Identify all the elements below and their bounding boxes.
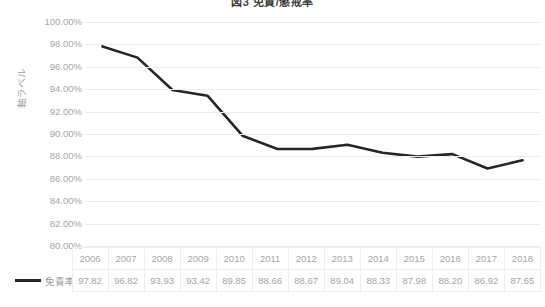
table-year-cell: 2013 — [324, 248, 360, 270]
gridline — [85, 134, 540, 135]
series-line-免責率 — [103, 46, 523, 168]
y-tick-label: 90.00% — [4, 129, 82, 139]
table-year-cell: 2016 — [432, 248, 468, 270]
y-tick-label: 88.00% — [4, 151, 82, 161]
table-value-cell: 93.42 — [180, 270, 216, 292]
table-year-cell: 2012 — [288, 248, 324, 270]
table-value-cell: 88.67 — [288, 270, 324, 292]
chart-data-table: 2006200720082009201020112012201320142015… — [14, 247, 541, 292]
table-year-cell: 2006 — [72, 248, 108, 270]
table-value-cell: 88.66 — [252, 270, 288, 292]
table-year-cell: 2018 — [504, 248, 540, 270]
table-year-cell: 2008 — [144, 248, 180, 270]
table-year-cell: 2009 — [180, 248, 216, 270]
table-value-cell: 87.65 — [504, 270, 540, 292]
table-year-cell: 2014 — [360, 248, 396, 270]
table-value-cell: 93.93 — [144, 270, 180, 292]
gridline — [85, 22, 540, 23]
gridline — [85, 112, 540, 113]
y-tick-label: 100.00% — [4, 17, 82, 27]
table-corner-cell — [14, 248, 72, 270]
table-year-cell: 2010 — [216, 248, 252, 270]
table-year-cell: 2017 — [468, 248, 504, 270]
table-value-cell: 88.20 — [432, 270, 468, 292]
gridline — [85, 201, 540, 202]
legend-label: 免責率 — [45, 276, 72, 287]
y-tick-label: 92.00% — [4, 107, 82, 117]
y-tick-label: 84.00% — [4, 196, 82, 206]
y-axis-tick-labels: 100.00%98.00%96.00%94.00%92.00%90.00%88.… — [0, 22, 82, 246]
gridline — [85, 89, 540, 90]
table-row-years: 2006200720082009201020112012201320142015… — [14, 248, 541, 270]
table-value-cell: 88.33 — [360, 270, 396, 292]
chart-title: 図3 免責/懲戒率 — [0, 0, 545, 9]
table-value-cell: 97.82 — [72, 270, 108, 292]
gridline — [85, 67, 540, 68]
table-value-cell: 86.92 — [468, 270, 504, 292]
table-year-cell: 2007 — [108, 248, 144, 270]
y-tick-label: 86.00% — [4, 174, 82, 184]
y-tick-label: 98.00% — [4, 39, 82, 49]
y-tick-label: 94.00% — [4, 84, 82, 94]
gridline — [85, 224, 540, 225]
plot-area — [85, 22, 540, 246]
gridline — [85, 44, 540, 45]
gridline — [85, 156, 540, 157]
y-tick-label: 96.00% — [4, 62, 82, 72]
y-tick-label: 82.00% — [4, 219, 82, 229]
gridline — [85, 179, 540, 180]
table-row-values: 免責率 97.8296.8293.9393.4289.8588.6688.678… — [14, 270, 541, 292]
table-value-cell: 89.85 — [216, 270, 252, 292]
table-value-cell: 89.04 — [324, 270, 360, 292]
table-value-cell: 96.82 — [108, 270, 144, 292]
legend-entry[interactable]: 免責率 — [14, 270, 72, 292]
table-value-cell: 87.98 — [396, 270, 432, 292]
table-year-cell: 2015 — [396, 248, 432, 270]
table-year-cell: 2011 — [252, 248, 288, 270]
legend-line-swatch — [15, 279, 41, 282]
